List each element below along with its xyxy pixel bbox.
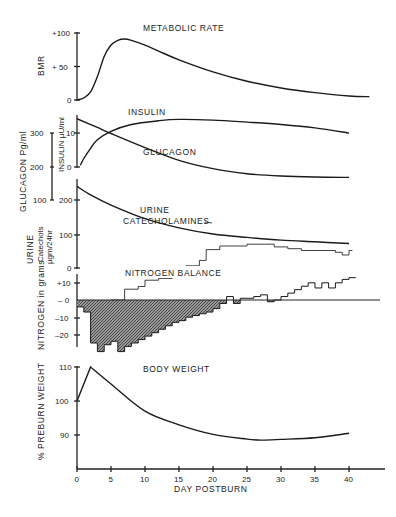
bmr-title: METABOLIC RATE xyxy=(143,23,224,33)
glucagon-label: GLUCAGON xyxy=(143,147,196,157)
x-tick-label: 5 xyxy=(109,475,114,484)
bmr-ylabel: BMR xyxy=(36,55,46,76)
nitrogen-tick-plus10: +10 xyxy=(57,279,71,288)
weight-tick-100: 100 xyxy=(55,397,69,406)
insulin-label: INSULIN xyxy=(128,107,166,117)
nitrogen-panel: NITROGEN BALANCE +10 – 0 –10 –20 NITROGE… xyxy=(36,260,380,352)
bmr-curve xyxy=(77,39,369,100)
x-tick-label: 35 xyxy=(310,475,319,484)
chart-figure: METABOLIC RATE BMR +100 + 50 0 INSULIN G… xyxy=(0,0,396,517)
weight-tick-110: 110 xyxy=(59,363,72,372)
glucagon-tick-200: 200 xyxy=(30,163,44,172)
catechol-ylabel-3: µgm/24hr xyxy=(45,230,54,264)
figure-caption-cutoff xyxy=(0,506,396,517)
x-tick-label: 20 xyxy=(208,475,217,484)
insulin-curve xyxy=(80,119,349,165)
bmr-tick-100: +100 xyxy=(52,29,71,38)
x-axis-label: DAY POSTBURN xyxy=(174,484,247,494)
bmr-tick-50: + 50 xyxy=(52,63,68,72)
glucagon-tick-300: 300 xyxy=(30,129,44,138)
nitrogen-ylabel: NITROGEN in grams xyxy=(36,260,46,350)
x-tick-label: 15 xyxy=(174,475,183,484)
nitrogen-title: NITROGEN BALANCE xyxy=(125,268,222,278)
catechol-tick-0: 0 xyxy=(67,264,72,273)
catechol-ylabel-1: URINE xyxy=(25,235,35,264)
weight-title: BODY WEIGHT xyxy=(143,364,210,374)
catechol-label-1: URINE xyxy=(140,205,169,215)
glucagon-tick-100: 100 xyxy=(33,196,47,205)
insulin-tick-10: 10 xyxy=(66,129,75,138)
nitrogen-tick-minus10: –10 xyxy=(55,314,69,323)
catecholamine-curve xyxy=(77,186,349,243)
nitrogen-tick-minus20: –20 xyxy=(55,331,69,340)
bmr-tick-0: 0 xyxy=(67,96,72,105)
x-tick-label: 25 xyxy=(242,475,251,484)
x-tick-label: 40 xyxy=(344,475,353,484)
x-tick-label: 0 xyxy=(75,475,80,484)
weight-curve xyxy=(77,367,349,440)
x-tick-label: 10 xyxy=(140,475,149,484)
catechol-tick-200: 200 xyxy=(59,196,73,205)
x-tick-label: 30 xyxy=(276,475,285,484)
glucagon-ylabel: GLUCAGON Pg/ml xyxy=(18,131,28,212)
weight-panel: BODY WEIGHT % PREBURN WEIGHT 110 100 90 … xyxy=(36,363,385,494)
bmr-panel: METABOLIC RATE BMR +100 + 50 0 xyxy=(36,23,369,105)
nitrogen-negative-area xyxy=(77,300,274,352)
insulin-tick-0: 0 xyxy=(67,163,72,172)
insulin-ylabel: INSULIN µU/ml xyxy=(57,117,66,172)
nitrogen-tick-0: – 0 xyxy=(58,296,70,305)
weight-ylabel: % PREBURN WEIGHT xyxy=(36,363,46,460)
weight-tick-90: 90 xyxy=(60,431,69,440)
catechol-tick-100: 100 xyxy=(59,231,73,240)
catechol-ylabel-2: Catechols xyxy=(36,226,45,262)
